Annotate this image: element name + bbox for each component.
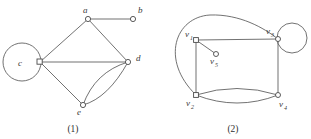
edge-v1-v5 [196, 40, 216, 54]
vertex-label-v2: v 2 [186, 98, 194, 110]
vertex-label-v5-base: v [210, 56, 214, 66]
vertex-label-v3-base: v [266, 26, 270, 36]
vertex-label-e: e [77, 107, 81, 117]
vertex-d [125, 59, 130, 64]
vertex-label-v1-sub: 1 [190, 35, 193, 41]
vertex-label-v1: v 1 [185, 29, 193, 41]
edge-a-c [40, 19, 88, 62]
graph-figure-svg: a b c d e (1) [0, 0, 311, 139]
vertex-label-v2-sub: 2 [191, 104, 194, 110]
vertex-v5 [214, 52, 219, 57]
edge-d-e-upper [83, 62, 128, 105]
edge-v2-v4-upper [196, 89, 278, 96]
vertex-v2 [194, 93, 199, 98]
vertex-label-v5-sub: 5 [215, 62, 218, 68]
vertex-label-v4-base: v [279, 99, 283, 109]
self-loop-v3-icon [277, 23, 307, 53]
vertex-label-a: a [83, 5, 88, 15]
vertex-label-v5: v 5 [210, 56, 218, 68]
caption-graph-2: (2) [227, 124, 238, 135]
vertex-label-v2-base: v [186, 98, 190, 108]
edge-v2-v4-lower [196, 95, 278, 103]
vertex-a [85, 16, 90, 21]
vertex-label-v3-sub: 3 [270, 32, 274, 38]
self-loop-c-icon [3, 43, 41, 81]
figure-container: a b c d e (1) [0, 0, 311, 139]
vertex-label-v1-base: v [185, 29, 189, 39]
vertex-label-d: d [136, 53, 141, 63]
vertex-v4 [276, 93, 281, 98]
vertex-label-v4: v 4 [279, 99, 287, 111]
caption-graph-1: (1) [67, 124, 78, 135]
vertex-label-b: b [138, 5, 143, 15]
vertex-label-v3: v 3 [266, 26, 274, 38]
vertex-e [80, 102, 85, 107]
vertex-v3 [276, 37, 281, 42]
edge-v2-v3-curve [175, 15, 278, 95]
graph-2: v 1 v 2 v 3 v 4 v 5 (2) [175, 15, 307, 135]
vertex-label-v4-sub: 4 [284, 105, 287, 111]
vertex-b [130, 16, 135, 21]
graph-1: a b c d e (1) [3, 5, 143, 135]
edge-v1-v3 [196, 39, 278, 40]
edge-a-d [88, 19, 128, 62]
vertex-v1 [194, 38, 199, 43]
edge-d-e-lower [83, 62, 128, 105]
edge-c-e [40, 62, 83, 105]
vertex-label-c: c [18, 58, 22, 68]
vertex-c [37, 59, 42, 64]
